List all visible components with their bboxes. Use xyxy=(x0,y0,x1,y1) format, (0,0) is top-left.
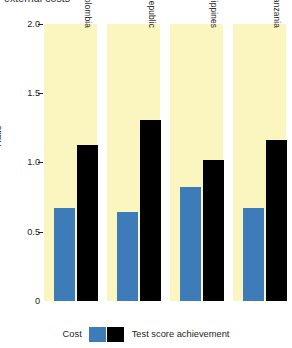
y-tick-label-1: 1.0 xyxy=(0,158,40,167)
group-label-dominican-republic: Dominican Republic xyxy=(146,0,155,28)
y-tick-mark-1 xyxy=(38,162,43,163)
legend-label-score: Test score achievement xyxy=(132,329,230,339)
group-label-colombia: Colombia xyxy=(83,0,92,28)
bar-cost-philippines xyxy=(180,187,201,301)
legend-swatch-score xyxy=(107,327,124,342)
bar-cost-tanzania xyxy=(243,208,264,301)
bar-score-tanzania xyxy=(266,140,287,301)
bar-cost-colombia xyxy=(54,208,75,301)
y-tick-mark-0_5 xyxy=(38,232,43,233)
legend-label-cost: Cost xyxy=(63,329,82,339)
y-tick-label-0_5: 0.5 xyxy=(0,228,40,237)
y-tick-mark-2 xyxy=(38,24,43,25)
legend-swatch-cost xyxy=(89,327,106,342)
bar-cost-dominican-republic xyxy=(117,212,138,301)
y-tick-label-2: 2.0 xyxy=(0,20,40,29)
plot-area: Colombia Dominican Republic Philippines … xyxy=(44,24,288,301)
y-tick-label-0: 0 xyxy=(0,297,40,306)
bar-score-philippines xyxy=(203,160,224,301)
y-tick-label-1_5: 1.5 xyxy=(0,89,40,98)
chart-legend: Cost Test score achievement xyxy=(0,326,292,342)
bar-chart: 2.0 1.5 1.0 0.5 0 Ratio Colombia Dominic… xyxy=(0,0,292,348)
group-label-tanzania: Tanzania xyxy=(272,0,281,28)
y-tick-mark-1_5 xyxy=(38,93,43,94)
bar-score-colombia xyxy=(77,145,98,302)
bar-score-dominican-republic xyxy=(140,120,161,301)
group-label-philippines: Philippines xyxy=(209,0,218,28)
y-axis-title: Ratio xyxy=(0,125,3,146)
